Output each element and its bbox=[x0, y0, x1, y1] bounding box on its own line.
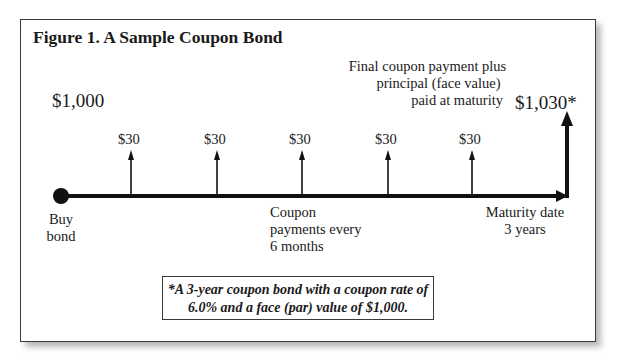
coupon-frequency-label: Coupon payments every 6 months bbox=[270, 204, 361, 255]
coupon-arrow-icon bbox=[128, 150, 134, 160]
footnote-box: *A 3-year coupon bond with a coupon rate… bbox=[162, 276, 434, 320]
maturity-arrowhead-icon bbox=[561, 111, 573, 126]
footnote-line-2: 6.0% and a face (par) value of $1,000. bbox=[163, 299, 433, 317]
coupon-arrow-icon bbox=[299, 150, 305, 160]
coupon-label-line-2: payments every bbox=[270, 221, 361, 238]
coupon-label-line-3: 6 months bbox=[270, 238, 361, 255]
coupon-label-line-1: Coupon bbox=[270, 204, 361, 221]
coupon-arrows bbox=[131, 158, 472, 196]
maturity-label: Maturity date 3 years bbox=[480, 204, 570, 238]
maturity-label-line-2: 3 years bbox=[480, 221, 570, 238]
maturity-label-line-1: Maturity date bbox=[480, 204, 570, 221]
start-label-line-2: bond bbox=[44, 228, 78, 245]
start-label: Buy bond bbox=[44, 211, 78, 245]
start-label-line-1: Buy bbox=[44, 211, 78, 228]
coupon-arrow-icon bbox=[385, 150, 391, 160]
start-dot-icon bbox=[53, 188, 69, 204]
coupon-arrow-icon bbox=[214, 150, 220, 160]
footnote-line-1: *A 3-year coupon bond with a coupon rate… bbox=[163, 281, 433, 299]
coupon-arrow-icon bbox=[469, 150, 475, 160]
